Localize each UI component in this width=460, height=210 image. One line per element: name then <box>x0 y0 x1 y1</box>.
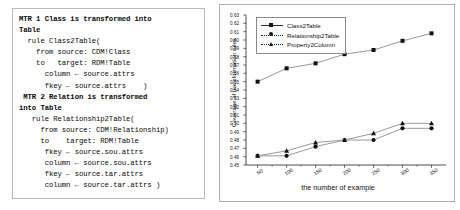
x-tick-label: 200 <box>341 167 352 177</box>
y-tick-label: 0.48 <box>230 138 239 143</box>
y-tick-label: 0.62 <box>230 21 239 26</box>
code-line: fkey ← source.attrs ) <box>19 81 200 92</box>
figure-root: MTR 1 Class is transformed intoTable rul… <box>0 0 460 210</box>
code-line: rule Class2Table( <box>19 36 200 47</box>
y-tick-label: 0.56 <box>230 71 239 76</box>
code-line: column ← source.sou.attrs <box>19 158 200 169</box>
code-line: MTR 1 Class is transformed into <box>19 14 200 25</box>
y-tick-label: 0.52 <box>230 104 239 109</box>
x-axis-tick-labels: 50100150200250300350 <box>220 165 456 183</box>
y-tick-label: 0.57 <box>230 63 239 68</box>
x-tick-label: 250 <box>370 167 381 177</box>
x-tick-label: 350 <box>428 167 439 177</box>
y-tick-label: 0.46 <box>230 154 239 159</box>
y-tick-label: 0.59 <box>230 46 239 51</box>
legend-item: Class2Table <box>261 21 339 31</box>
x-tick-label: 100 <box>283 167 294 177</box>
coverage-chart-panel: Coverage of transformation rules the num… <box>219 4 455 202</box>
code-line: Table <box>19 25 200 36</box>
y-tick-label: 0.54 <box>230 88 239 93</box>
y-tick-label: 0.55 <box>230 79 239 84</box>
legend-marker-square-icon <box>261 21 283 30</box>
series-relationship2table <box>255 126 433 158</box>
code-line: to target: RDM!Table <box>19 136 200 147</box>
x-tick-label: 150 <box>312 167 323 177</box>
y-tick-label: 0.60 <box>230 38 239 43</box>
y-tick-label: 0.51 <box>230 113 239 118</box>
y-tick-label: 0.50 <box>230 121 239 126</box>
code-line: to target: RDM!Table <box>19 58 200 69</box>
legend-label: Property2Column <box>287 41 335 48</box>
code-line: column ← source.attrs <box>19 69 200 80</box>
code-line: fkey ← source.tar.attrs <box>19 169 200 180</box>
x-tick-label: 300 <box>399 167 410 177</box>
series-property2column <box>255 121 434 158</box>
y-tick-label: 0.58 <box>230 54 239 59</box>
code-line: from source: CDM!Class <box>19 47 200 58</box>
x-tick-label: 50 <box>255 167 263 175</box>
code-line: from source: CDM!Relationship) <box>19 125 200 136</box>
legend-label: Class2Table <box>287 22 321 29</box>
y-tick-label: 0.61 <box>230 29 239 34</box>
legend-item: Property2Column <box>261 40 339 50</box>
code-line: into Table <box>19 103 200 114</box>
y-tick-label: 0.53 <box>230 96 239 101</box>
code-line: MTR 2 Relation is transformed <box>19 92 200 103</box>
y-tick-label: 0.63 <box>230 13 239 18</box>
y-tick-label: 0.47 <box>230 146 239 151</box>
legend-marker-circle-icon <box>261 31 283 40</box>
legend-label: Relationship2Table <box>287 32 339 39</box>
transformation-rule-panel: MTR 1 Class is transformed intoTable rul… <box>12 8 205 199</box>
chart-legend: Class2TableRelationship2TableProperty2Co… <box>256 17 346 54</box>
legend-marker-triangle-icon <box>261 40 283 49</box>
plot-area: Coverage of transformation rules the num… <box>220 5 454 201</box>
x-axis-title: the number of example <box>220 183 456 192</box>
legend-item: Relationship2Table <box>261 31 339 41</box>
code-block: MTR 1 Class is transformed intoTable rul… <box>19 14 200 192</box>
code-line: fkey ← source.sou.attrs <box>19 147 200 158</box>
code-line: rule Relationship2Table( <box>19 114 200 125</box>
y-tick-label: 0.49 <box>230 129 239 134</box>
code-line: column ← source.tar.attrs ) <box>19 180 200 191</box>
